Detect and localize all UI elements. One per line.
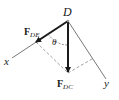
vector-f-de-label: FDE [24,22,39,39]
f-dc-subscript: DC [63,83,73,91]
y-axis-line [68,21,106,79]
point-d-marker [67,20,70,23]
dashed-component-y [68,59,92,73]
x-axis-label: x [4,56,9,67]
f-de-subscript: DE [30,31,39,39]
point-d-label: D [63,6,72,18]
theta-arc [48,34,68,45]
y-axis-label: y [104,78,109,89]
theta-label: θ [52,38,56,47]
vector-f-dc-label: FDC [57,74,73,91]
